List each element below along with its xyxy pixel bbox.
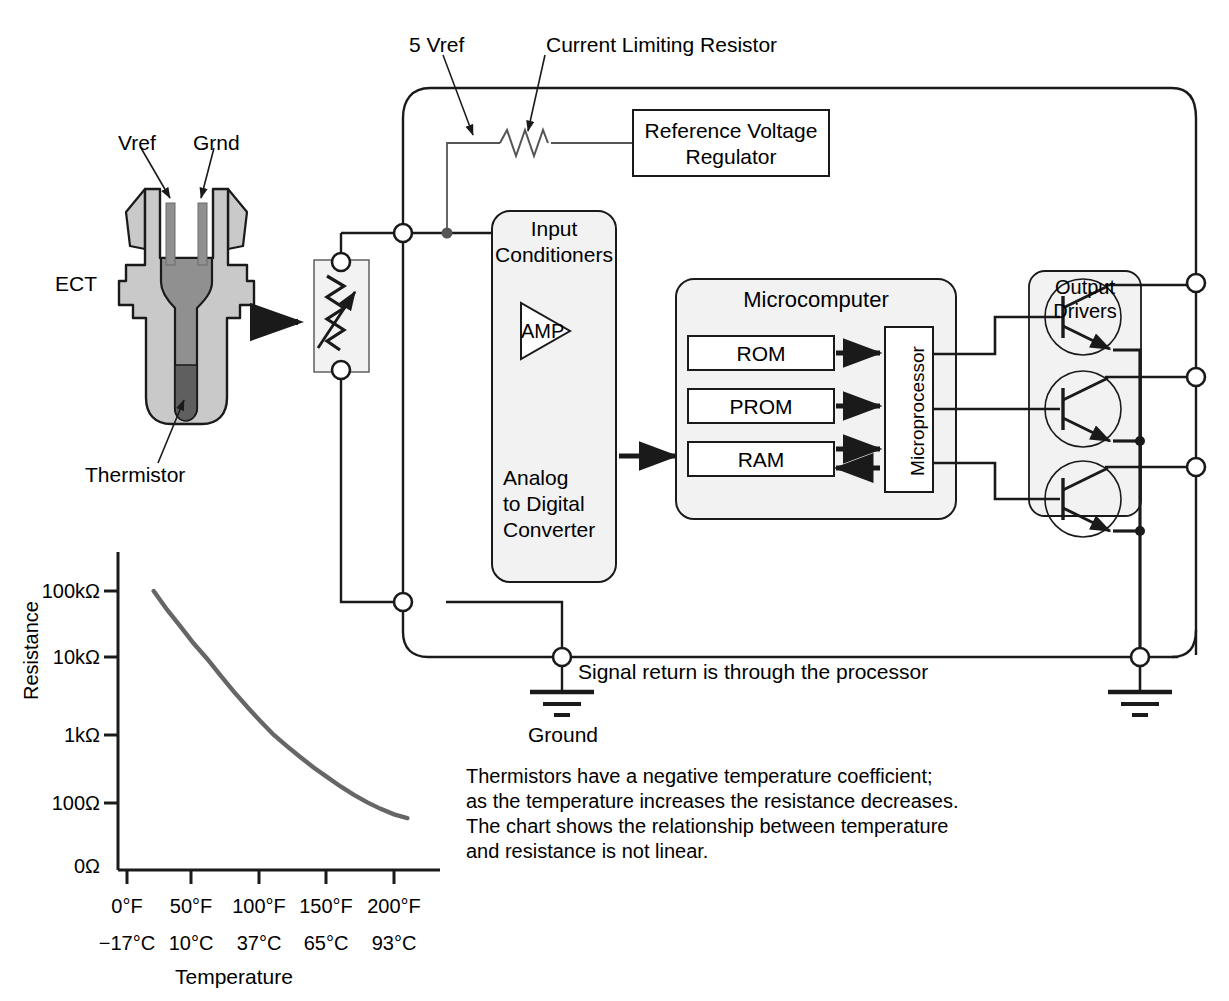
ground-label: Ground xyxy=(528,723,598,747)
sensor-pin-vref-label: Vref xyxy=(118,131,156,155)
amp-label: AMP xyxy=(521,320,565,343)
chart-xtick-label-10c: 10°C xyxy=(156,932,226,955)
chart-ytick-label-100: 100Ω xyxy=(18,792,100,815)
ground-symbol-right xyxy=(1108,666,1172,715)
note-line-4: and resistance is not linear. xyxy=(466,840,708,863)
sensor-pin-grnd xyxy=(198,203,207,265)
chart-xtick-label-37c: 37°C xyxy=(224,932,294,955)
output-drivers-label-1: Output xyxy=(1029,276,1141,299)
chart-ytick-label-1k: 1kΩ xyxy=(18,724,100,747)
chart-curve xyxy=(154,591,408,818)
microcomputer-label: Microcomputer xyxy=(676,287,956,313)
chart-xtick-label-0f: 0°F xyxy=(92,895,162,918)
sensor-pin-vref xyxy=(166,203,175,265)
emitter-junction-3 xyxy=(1135,526,1145,536)
chart-xtick-label-150f: 150°F xyxy=(291,895,361,918)
current-limiting-resistor xyxy=(500,130,548,156)
chart-ytick-label-100k: 100kΩ xyxy=(18,580,100,603)
ram-label: RAM xyxy=(688,448,834,472)
thermistor-symbol xyxy=(314,260,369,372)
adc-label-2: to Digital xyxy=(503,492,585,516)
vref-label: 5 Vref xyxy=(409,33,464,57)
chart-x-axis-label: Temperature xyxy=(175,965,293,989)
adc-label-3: Converter xyxy=(503,518,595,542)
adc-label-1: Analog xyxy=(503,466,568,490)
chart-xtick-label-m17c: −17°C xyxy=(92,932,162,955)
terminal-right-ground xyxy=(1131,648,1149,666)
chart-xtick-label-100f: 100°F xyxy=(224,895,294,918)
ground-symbol-left xyxy=(530,692,594,715)
terminal-thermistor-top xyxy=(394,224,412,242)
terminal-thermistor-symbol-bottom xyxy=(332,361,350,379)
current-limiting-resistor-label: Current Limiting Resistor xyxy=(546,33,777,57)
chart-ytick-label-10k: 10kΩ xyxy=(18,646,100,669)
terminal-driver1-output xyxy=(1187,274,1205,292)
reference-voltage-regulator-label-1: Reference Voltage xyxy=(633,118,829,144)
note-line-1: Thermistors have a negative temperature … xyxy=(466,765,933,788)
chart-xtick-label-50f: 50°F xyxy=(156,895,226,918)
terminal-thermistor-symbol-top xyxy=(332,253,350,271)
vref-label-leader xyxy=(443,55,473,135)
thermistor-bottom-wire xyxy=(341,368,403,602)
ground-drop-wire xyxy=(446,602,562,658)
emitter-junction-2 xyxy=(1135,436,1145,446)
note-line-2: as the temperature increases the resista… xyxy=(466,790,958,813)
thermistor-label: Thermistor xyxy=(85,463,185,487)
input-conditioners-label-1: Input xyxy=(492,217,616,241)
reference-voltage-regulator-label-2: Regulator xyxy=(633,144,829,170)
clr-label-leader xyxy=(528,55,545,131)
terminal-ground-node xyxy=(553,648,571,666)
note-line-3: The chart shows the relationship between… xyxy=(466,815,949,838)
sensor-outer-shell xyxy=(126,189,145,249)
output-drivers-label-2: Drivers xyxy=(1029,300,1141,323)
sensor-pin-grnd-label: Grnd xyxy=(193,131,240,155)
terminal-driver2-output xyxy=(1187,368,1205,386)
chart-xtick-label-200f: 200°F xyxy=(359,895,429,918)
sensor-name-label: ECT xyxy=(55,272,97,296)
prom-label: PROM xyxy=(688,395,834,419)
input-conditioners-label-2: Conditioners xyxy=(484,243,624,267)
diagram-canvas: Vref Grnd ECT Thermistor 5 Vref Current … xyxy=(0,0,1229,1001)
chart-xtick-label-93c: 93°C xyxy=(359,932,429,955)
module-right-ground-wire xyxy=(1172,630,1196,657)
chart-xtick-label-65c: 65°C xyxy=(291,932,361,955)
terminal-signal-return xyxy=(394,593,412,611)
module-bottom-wire xyxy=(403,600,1178,657)
chart-ytick-label-0: 0Ω xyxy=(18,855,100,878)
terminal-driver3-output xyxy=(1187,458,1205,476)
signal-return-note: Signal return is through the processor xyxy=(578,660,928,684)
ect-sensor-illustration xyxy=(119,148,254,463)
rom-label: ROM xyxy=(688,342,834,366)
junction-vref-tap xyxy=(442,228,453,239)
microprocessor-label: Microprocessor xyxy=(907,329,929,494)
sensor-outer-shell-right xyxy=(228,189,247,249)
